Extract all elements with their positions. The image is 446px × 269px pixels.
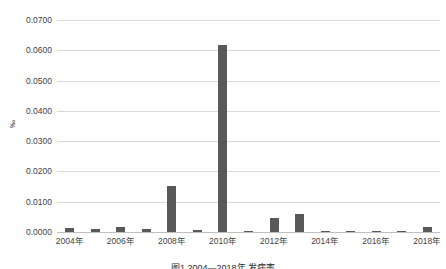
gridline — [57, 50, 440, 51]
x-axis-tick-labels: 2004年2006年2008年2010年2012年2014年2016年2018年 — [57, 234, 440, 248]
bar — [116, 227, 125, 232]
bar — [346, 231, 355, 232]
bar — [91, 229, 100, 232]
gridline — [57, 81, 440, 82]
figure-caption: 图1 2004—2018年 发病率 — [0, 261, 446, 269]
y-tick-label: 0.0100 — [4, 197, 52, 207]
plot-area — [57, 20, 440, 232]
gridline — [57, 202, 440, 203]
gridline — [57, 141, 440, 142]
bar — [193, 230, 202, 232]
y-tick-label: 0.0400 — [4, 106, 52, 116]
x-tick-label: 2006年 — [99, 234, 143, 246]
gridline — [57, 111, 440, 112]
bar — [423, 227, 432, 232]
bar — [167, 186, 176, 232]
x-tick-label: 2012年 — [252, 234, 296, 246]
y-tick-label: 0.0600 — [4, 45, 52, 55]
x-tick-label: 2004年 — [48, 234, 92, 246]
bar — [65, 228, 74, 232]
bar — [218, 45, 227, 232]
bar — [372, 231, 381, 232]
bar — [321, 231, 330, 232]
x-tick-label: 2010年 — [201, 234, 245, 246]
x-tick-label: 2016年 — [354, 234, 398, 246]
bar — [397, 231, 406, 232]
gridline — [57, 171, 440, 172]
bar — [295, 214, 304, 232]
x-tick-label: 2018年 — [405, 234, 446, 246]
bar — [270, 218, 279, 232]
y-axis-tick-labels: 0.07000.06000.05000.04000.03000.02000.01… — [0, 20, 52, 232]
y-tick-label: 0.0000 — [4, 227, 52, 237]
bar — [244, 231, 253, 232]
y-tick-label: 0.0700 — [4, 15, 52, 25]
y-tick-label: 0.0200 — [4, 166, 52, 176]
gridline — [57, 20, 440, 21]
y-tick-label: 0.0500 — [4, 76, 52, 86]
x-tick-label: 2008年 — [150, 234, 194, 246]
bar — [142, 229, 151, 232]
x-tick-label: 2014年 — [303, 234, 347, 246]
y-tick-label: 0.0300 — [4, 136, 52, 146]
gridline — [57, 232, 440, 233]
bar-chart-figure: ‰ 0.07000.06000.05000.04000.03000.02000.… — [0, 0, 446, 269]
